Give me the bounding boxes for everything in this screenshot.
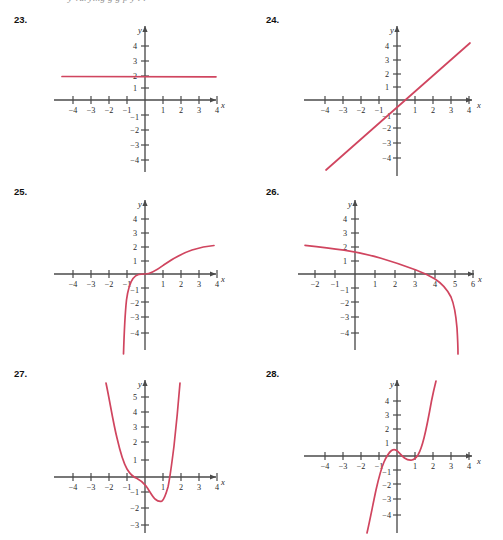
svg-text:4: 4 bbox=[133, 215, 137, 224]
svg-text:−4: −4 bbox=[130, 156, 139, 165]
graph-26-axes bbox=[298, 200, 474, 350]
svg-text:4: 4 bbox=[467, 462, 471, 471]
svg-text:1: 1 bbox=[373, 280, 377, 289]
svg-text:3: 3 bbox=[197, 483, 201, 492]
svg-text:−4: −4 bbox=[69, 280, 78, 289]
worksheet-page: y varying g g p y i i 23. bbox=[0, 0, 503, 540]
svg-text:3: 3 bbox=[197, 280, 201, 289]
graph-28-svg: −4 −3 −2 −1 1 2 3 4 4 3 2 1 −1 −2 −3 −4 bbox=[290, 370, 490, 540]
graph-25: −4 −3 −2 −1 1 2 3 4 4 3 2 1 −1 −2 −3 −4 bbox=[40, 188, 230, 363]
svg-text:4: 4 bbox=[215, 106, 219, 115]
svg-text:4: 4 bbox=[133, 408, 137, 417]
svg-text:−3: −3 bbox=[87, 280, 96, 289]
x-axis-arrow-icon bbox=[210, 97, 216, 102]
svg-text:3: 3 bbox=[197, 106, 201, 115]
page-header-strip: y varying g g p y i i bbox=[0, 0, 503, 9]
problem-number-24: 24. bbox=[266, 14, 279, 25]
x-axis-label: x bbox=[220, 477, 225, 487]
svg-text:−3: −3 bbox=[130, 313, 139, 322]
curve-28 bbox=[367, 381, 436, 533]
svg-text:1: 1 bbox=[413, 106, 417, 115]
graph-23-svg: −4 −3 −2 −1 1 2 3 4 4 3 2 1 −1 −2 −3 −4 bbox=[40, 16, 230, 181]
svg-text:4: 4 bbox=[433, 280, 437, 289]
y-axis-label: y bbox=[137, 379, 142, 389]
svg-text:−4: −4 bbox=[340, 329, 349, 338]
svg-text:−2: −2 bbox=[340, 299, 349, 308]
svg-text:−4: −4 bbox=[382, 511, 391, 520]
svg-text:−2: −2 bbox=[130, 126, 139, 135]
svg-text:3: 3 bbox=[385, 411, 389, 420]
svg-text:4: 4 bbox=[343, 215, 347, 224]
svg-text:−4: −4 bbox=[321, 106, 330, 115]
svg-text:4: 4 bbox=[215, 483, 219, 492]
svg-text:2: 2 bbox=[179, 280, 183, 289]
svg-text:3: 3 bbox=[449, 462, 453, 471]
graph-26-ticks bbox=[315, 219, 473, 333]
problem-number-27: 27. bbox=[14, 368, 27, 379]
y-axis-label: y bbox=[389, 379, 394, 389]
svg-text:5: 5 bbox=[133, 393, 137, 402]
svg-text:−3: −3 bbox=[382, 139, 391, 148]
svg-text:1: 1 bbox=[161, 280, 165, 289]
svg-text:1: 1 bbox=[161, 106, 165, 115]
graph-24: −4 −3 −2 −1 1 2 3 4 4 3 2 1 −1 −2 −3 −4 bbox=[290, 16, 490, 184]
graph-27-svg: −4 −3 −2 −1 1 2 3 4 5 4 3 2 1 −1 −2 −3 x bbox=[40, 370, 230, 540]
x-axis-arrow-icon bbox=[210, 474, 216, 479]
x-axis-label: x bbox=[477, 274, 482, 284]
problem-number-28: 28. bbox=[266, 368, 279, 379]
svg-text:3: 3 bbox=[343, 229, 347, 238]
graph-27-tick-labels: −4 −3 −2 −1 1 2 3 4 5 4 3 2 1 −1 −2 −3 x bbox=[69, 379, 225, 530]
svg-text:3: 3 bbox=[133, 57, 137, 66]
svg-text:4: 4 bbox=[467, 106, 471, 115]
svg-text:−2: −2 bbox=[357, 106, 366, 115]
svg-text:2: 2 bbox=[385, 70, 389, 79]
graph-23: −4 −3 −2 −1 1 2 3 4 4 3 2 1 −1 −2 −3 −4 bbox=[40, 16, 230, 181]
svg-text:−3: −3 bbox=[87, 483, 96, 492]
svg-text:1: 1 bbox=[161, 483, 165, 492]
problem-number-26: 26. bbox=[266, 186, 279, 197]
svg-text:−3: −3 bbox=[340, 313, 349, 322]
svg-text:−1: −1 bbox=[130, 113, 139, 122]
svg-text:−3: −3 bbox=[130, 141, 139, 150]
svg-text:2: 2 bbox=[133, 243, 137, 252]
svg-text:1: 1 bbox=[413, 462, 417, 471]
svg-text:−1: −1 bbox=[130, 286, 139, 295]
svg-text:2: 2 bbox=[385, 425, 389, 434]
y-axis-label: y bbox=[137, 25, 142, 35]
svg-text:5: 5 bbox=[453, 280, 457, 289]
svg-text:2: 2 bbox=[179, 483, 183, 492]
svg-text:1: 1 bbox=[385, 83, 389, 92]
graph-26: −2 −1 1 2 3 4 5 6 4 3 2 1 −1 −2 −3 −4 x bbox=[284, 188, 489, 363]
x-axis-label: x bbox=[220, 274, 225, 284]
svg-text:1: 1 bbox=[343, 257, 347, 266]
svg-text:−4: −4 bbox=[382, 154, 391, 163]
svg-text:1: 1 bbox=[133, 257, 137, 266]
x-axis-label: x bbox=[220, 100, 225, 110]
graph-28: −4 −3 −2 −1 1 2 3 4 4 3 2 1 −1 −2 −3 −4 bbox=[290, 370, 490, 540]
svg-text:−3: −3 bbox=[130, 521, 139, 530]
svg-text:−4: −4 bbox=[69, 483, 78, 492]
y-axis-arrow-icon bbox=[142, 26, 147, 32]
svg-text:1: 1 bbox=[385, 439, 389, 448]
svg-text:−2: −2 bbox=[357, 462, 366, 471]
x-axis-label: x bbox=[476, 100, 481, 110]
svg-text:−1: −1 bbox=[331, 280, 340, 289]
graph-24-svg: −4 −3 −2 −1 1 2 3 4 4 3 2 1 −1 −2 −3 −4 bbox=[290, 16, 490, 184]
x-axis-label: x bbox=[476, 456, 481, 466]
svg-text:1: 1 bbox=[133, 84, 137, 93]
y-axis-label: y bbox=[137, 199, 142, 209]
svg-text:2: 2 bbox=[393, 280, 397, 289]
problem-number-23: 23. bbox=[14, 14, 27, 25]
svg-text:3: 3 bbox=[385, 56, 389, 65]
problem-number-25: 25. bbox=[14, 186, 27, 197]
svg-text:4: 4 bbox=[133, 42, 137, 51]
y-axis-arrow-icon bbox=[142, 380, 147, 386]
svg-text:2: 2 bbox=[431, 106, 435, 115]
svg-text:6: 6 bbox=[471, 280, 475, 289]
svg-text:−2: −2 bbox=[105, 106, 114, 115]
x-axis-arrow-icon bbox=[210, 271, 216, 276]
svg-text:3: 3 bbox=[413, 280, 417, 289]
page-header-text: y varying g g p y i i bbox=[68, 0, 146, 3]
svg-text:1: 1 bbox=[133, 456, 137, 465]
svg-text:4: 4 bbox=[385, 42, 389, 51]
